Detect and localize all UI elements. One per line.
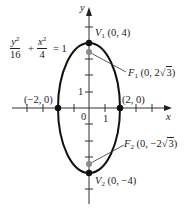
equation-term-y: y2 16 xyxy=(10,37,21,60)
equation-term-x: x2 4 xyxy=(37,37,47,60)
f1-label: F1 (0, 2√3) xyxy=(128,68,175,79)
covertex-left-label: (−2, 0) xyxy=(24,95,53,106)
y-tick-label-1: 1 xyxy=(78,87,83,98)
equation-equals: = 1 xyxy=(53,44,67,55)
covertex-left-dot xyxy=(55,105,61,111)
covertex-right-dot xyxy=(117,105,123,111)
equation-y-exp: 2 xyxy=(16,35,20,43)
origin-label: 0 xyxy=(81,112,86,123)
y-axis-arrow-icon xyxy=(86,7,92,16)
focus-f1-dot xyxy=(86,49,92,55)
f2-label: F2 (0, −2√3) xyxy=(124,139,177,150)
equation-x-exp: 2 xyxy=(43,35,47,43)
v1-label: V1 (0, 4) xyxy=(95,28,130,39)
equation-x-den: 4 xyxy=(39,49,44,61)
equation-plus: + xyxy=(28,44,34,55)
x-axis-label: x xyxy=(166,112,171,123)
y-axis-label: y xyxy=(80,3,85,14)
focus-f2-dot xyxy=(86,161,92,167)
vertex-v1-dot xyxy=(86,40,92,46)
equation-y-den: 16 xyxy=(10,49,21,61)
covertex-right-label: (2, 0) xyxy=(122,95,145,106)
v2-label: V2 (0, −4) xyxy=(95,176,136,187)
vertex-v2-dot xyxy=(86,170,92,176)
x-tick-label-1: 1 xyxy=(103,114,108,125)
